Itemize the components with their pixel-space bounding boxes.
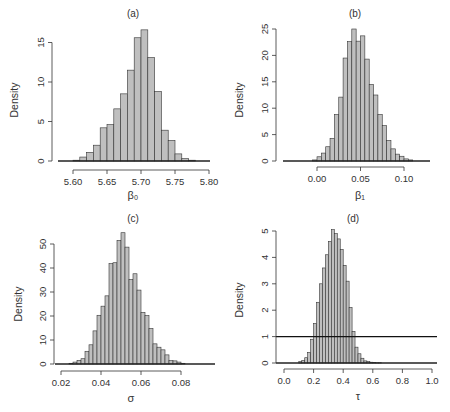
- histogram-bar: [320, 284, 323, 363]
- panel-c: (c)01020304050Density0.020.040.060.08σ: [0, 206, 225, 412]
- histogram-tau: (d)012345Density0.00.20.40.60.81.0τ: [225, 206, 450, 412]
- y-tick-label: 0: [35, 158, 46, 163]
- histogram-bar: [334, 234, 337, 363]
- histogram-bar: [161, 130, 168, 161]
- x-tick-label: 0.02: [52, 377, 71, 388]
- y-tick-label: 20: [259, 50, 270, 61]
- histogram-bar: [89, 345, 93, 364]
- histogram-bar: [328, 242, 331, 363]
- histogram-bar: [365, 59, 369, 161]
- histogram-bar: [149, 328, 153, 364]
- x-tick-label: 5.65: [98, 176, 117, 187]
- histogram-bar: [387, 140, 391, 161]
- histogram-bar: [349, 308, 352, 363]
- histogram-bar: [133, 274, 137, 364]
- x-axis-label: τ: [356, 390, 361, 402]
- histogram-bar: [101, 306, 105, 364]
- y-tick-label: 15: [259, 77, 270, 88]
- histogram-bar: [155, 91, 162, 161]
- x-tick-label: 0.10: [395, 173, 414, 184]
- y-tick-label: 0: [259, 158, 270, 163]
- histogram-bar: [369, 84, 373, 161]
- x-tick-label: 0.6: [366, 375, 379, 386]
- y-tick-label: 4: [259, 255, 270, 260]
- histogram-bar: [337, 239, 340, 363]
- panel-b: (b)0510152025Density0.000.050.10β₁: [225, 0, 450, 206]
- histogram-bar: [121, 233, 125, 364]
- panel-d: (d)012345Density0.00.20.40.60.81.0τ: [225, 206, 450, 412]
- y-tick-label: 0: [259, 360, 270, 365]
- y-axis: 012345: [259, 228, 276, 365]
- y-axis-label: Density: [8, 82, 20, 118]
- histogram-bar: [137, 290, 141, 364]
- histogram-bar: [355, 347, 358, 363]
- x-tick-label: 0.06: [132, 377, 151, 388]
- histogram-beta1: (b)0510152025Density0.000.050.10β₁: [225, 0, 450, 206]
- panel-title: (c): [127, 213, 139, 224]
- histogram-bar: [378, 115, 382, 161]
- histogram-bar: [153, 344, 157, 364]
- y-tick-label: 5: [259, 228, 270, 233]
- y-axis-label: Density: [233, 82, 245, 118]
- histogram-bar: [382, 126, 386, 161]
- x-tick-label: 5.60: [64, 176, 83, 187]
- histogram-sigma: (c)01020304050Density0.020.040.060.08σ: [0, 206, 225, 412]
- histogram-bar: [391, 149, 395, 161]
- panel-title: (b): [349, 8, 361, 19]
- histogram-bar: [125, 247, 129, 364]
- histogram-bar: [129, 280, 133, 364]
- y-tick-label: 10: [259, 103, 270, 114]
- x-axis: 5.605.655.705.755.80: [64, 170, 219, 187]
- histogram-bar: [308, 352, 311, 363]
- histogram-bar: [141, 30, 148, 161]
- histogram-bar: [347, 42, 351, 161]
- histogram-bar: [107, 125, 114, 161]
- x-tick-label: 0.04: [92, 377, 111, 388]
- histogram-bar: [93, 145, 100, 161]
- y-tick-label: 0: [37, 361, 48, 366]
- histogram-bar: [100, 128, 107, 161]
- histogram-bar: [141, 312, 145, 364]
- histogram-bars: [69, 233, 185, 364]
- y-tick-label: 20: [37, 311, 48, 322]
- histogram-bar: [330, 138, 334, 161]
- y-tick-label: 25: [259, 24, 270, 35]
- y-tick-label: 10: [35, 77, 46, 88]
- histogram-bar: [105, 296, 109, 364]
- y-tick-label: 50: [37, 239, 48, 250]
- histogram-bar: [148, 58, 155, 161]
- x-axis-label: σ: [128, 392, 135, 404]
- panel-title: (d): [347, 213, 359, 224]
- histogram-bar: [165, 355, 169, 364]
- histogram-bars: [73, 30, 195, 161]
- histogram-bar: [317, 302, 320, 363]
- x-tick-label: 0.05: [351, 173, 370, 184]
- y-tick-label: 40: [37, 263, 48, 274]
- histogram-bar: [326, 147, 330, 161]
- x-tick-label: 5.70: [132, 176, 151, 187]
- histogram-bars: [299, 230, 382, 363]
- histogram-bar: [134, 38, 141, 161]
- panel-a: (a)051015Density5.605.655.705.755.80β₀: [0, 0, 225, 206]
- y-axis: 01020304050: [37, 239, 54, 367]
- x-axis: 0.020.040.060.08: [52, 371, 191, 388]
- x-tick-label: 0.08: [172, 377, 191, 388]
- histogram-bar: [168, 140, 175, 161]
- histogram-bar: [161, 350, 165, 364]
- histogram-bar: [334, 115, 338, 161]
- y-tick-label: 5: [35, 119, 46, 124]
- histogram-bar: [157, 347, 161, 364]
- x-tick-label: 0.0: [277, 375, 290, 386]
- histogram-bar: [374, 95, 378, 161]
- x-axis-label: β₁: [355, 189, 365, 201]
- histogram-bar: [121, 94, 128, 161]
- histogram-bar: [93, 331, 97, 364]
- histogram-bar: [325, 255, 328, 363]
- histogram-bar: [113, 263, 117, 364]
- histogram-bars: [313, 29, 413, 161]
- histogram-bar: [340, 249, 343, 363]
- histogram-bar: [175, 154, 182, 161]
- histogram-bar: [85, 351, 89, 364]
- y-tick-label: 30: [37, 287, 48, 298]
- histogram-bar: [109, 264, 113, 364]
